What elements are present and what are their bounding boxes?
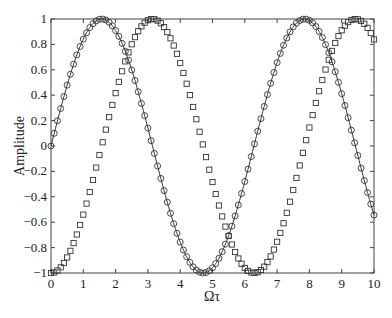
square-marker <box>174 51 179 56</box>
square-marker <box>291 187 296 192</box>
square-marker <box>81 212 86 217</box>
square-marker <box>220 214 225 219</box>
square-marker <box>77 222 82 227</box>
square-marker <box>113 91 118 96</box>
square-marker <box>207 167 212 172</box>
x-tick-label: 10 <box>368 276 381 291</box>
square-marker <box>119 69 124 74</box>
square-marker <box>168 36 173 41</box>
square-marker <box>304 138 309 143</box>
square-marker <box>271 247 276 252</box>
square-marker <box>103 127 108 132</box>
square-marker <box>200 142 205 147</box>
square-marker <box>71 241 76 246</box>
square-marker <box>87 189 92 194</box>
y-tick-label: −1 <box>33 265 47 280</box>
x-tick-label: 8 <box>306 276 313 291</box>
square-marker <box>294 175 299 180</box>
square-marker <box>297 163 302 168</box>
axis-ticks: 012345678910−1−0.8−0.6−0.4−0.200.20.40.6… <box>23 11 380 291</box>
square-marker <box>203 155 208 160</box>
square-marker <box>323 67 328 72</box>
square-marker <box>68 248 73 253</box>
square-marker <box>368 30 373 35</box>
square-marker <box>132 35 137 40</box>
square-marker <box>129 42 134 47</box>
x-tick-label: 7 <box>274 276 281 291</box>
x-tick-label: 4 <box>177 276 184 291</box>
x-tick-label: 9 <box>338 276 345 291</box>
square-marker <box>55 268 60 273</box>
square-marker <box>90 177 95 182</box>
square-marker <box>184 81 189 86</box>
square-marker <box>165 30 170 35</box>
square-marker <box>213 191 218 196</box>
square-marker <box>223 224 228 229</box>
y-tick-label: −0.6 <box>23 214 47 229</box>
square-marker <box>178 60 183 65</box>
x-tick-label: 3 <box>145 276 152 291</box>
square-marker <box>320 77 325 82</box>
x-tick-label: 6 <box>242 276 249 291</box>
x-axis-label: Ωτ <box>204 289 220 304</box>
square-marker <box>100 140 105 145</box>
square-marker <box>210 179 215 184</box>
x-tick-label: 0 <box>48 276 55 291</box>
square-marker <box>278 230 283 235</box>
square-marker <box>281 221 286 226</box>
y-tick-label: 1 <box>41 11 48 26</box>
y-tick-label: 0 <box>41 138 48 153</box>
square-marker <box>94 165 99 170</box>
square-marker <box>233 249 238 254</box>
y-tick-label: 0.2 <box>31 113 47 128</box>
square-marker <box>336 33 341 38</box>
square-marker <box>197 129 202 134</box>
y-tick-label: 0.8 <box>31 36 47 51</box>
square-marker <box>275 239 280 244</box>
square-marker <box>287 199 292 204</box>
square-marker <box>110 102 115 107</box>
square-marker <box>181 70 186 75</box>
square-marker <box>310 112 315 117</box>
square-marker <box>65 255 70 260</box>
square-marker <box>84 201 89 206</box>
square-marker <box>307 125 312 130</box>
y-tick-label: 0.6 <box>31 62 48 77</box>
y-axis-label: Amplitude <box>12 116 27 176</box>
square-marker <box>187 92 192 97</box>
square-marker <box>161 24 166 29</box>
square-marker <box>97 152 102 157</box>
square-marker <box>258 267 263 272</box>
series-sin-circles <box>48 16 377 276</box>
square-marker <box>194 117 199 122</box>
y-tick-label: 0.4 <box>31 87 48 102</box>
square-marker <box>284 210 289 215</box>
square-marker <box>229 242 234 247</box>
square-marker <box>107 115 112 120</box>
x-tick-label: 2 <box>112 276 119 291</box>
square-marker <box>333 40 338 45</box>
square-marker <box>316 89 321 94</box>
square-marker <box>191 104 196 109</box>
y-tick-label: −0.8 <box>23 240 47 255</box>
square-marker <box>300 150 305 155</box>
y-tick-label: −0.4 <box>23 189 47 204</box>
amplitude-chart: 012345678910−1−0.8−0.6−0.4−0.200.20.40.6… <box>0 0 392 318</box>
x-tick-label: 1 <box>80 276 87 291</box>
square-marker <box>216 203 221 208</box>
square-marker <box>74 232 79 237</box>
square-marker <box>171 43 176 48</box>
square-marker <box>313 100 318 105</box>
square-marker <box>268 254 273 259</box>
plot-frame <box>51 19 374 273</box>
square-marker <box>236 256 241 261</box>
square-marker <box>116 79 121 84</box>
